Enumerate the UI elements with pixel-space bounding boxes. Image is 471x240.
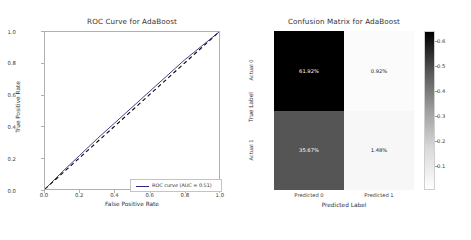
cm-cell-value-1-0: 35.67% — [299, 147, 319, 153]
cm-col-label-predicted-0: Predicted 0 — [274, 192, 344, 198]
cm-cell-value-0-0: 61.92% — [299, 68, 319, 74]
roc-plot-area — [44, 31, 220, 190]
cm-row-actual-1: 35.67% 1.48% — [274, 111, 414, 191]
roc-ytick-0.0: 0.0 — [0, 188, 16, 194]
cm-x-axis-label: Predicted Label — [274, 202, 414, 208]
roc-xtick-0.6: 0.6 — [135, 192, 165, 198]
confusion-matrix-panel: Confusion Matrix for AdaBoost True Label… — [240, 0, 471, 240]
legend-label-roc-curve: ROC curve (AUC = 0.51) — [152, 182, 212, 188]
chance-diagonal-line — [45, 32, 219, 189]
colorbar-tick-0.6: 0.6 — [437, 38, 445, 44]
roc-xtick-0.2: 0.2 — [64, 192, 94, 198]
roc-ytick-0.8: 0.8 — [0, 60, 16, 66]
roc-ytick-1.0: 1.0 — [0, 29, 16, 35]
confusion-matrix-title: Confusion Matrix for AdaBoost — [274, 17, 414, 26]
cm-heatmap-grid: 61.92% 0.92% 35.67% 1.48% — [274, 31, 414, 190]
roc-ytick-0.4: 0.4 — [0, 124, 16, 130]
figure-canvas: ROC Curve for AdaBoost True Positive Rat… — [0, 0, 471, 240]
cm-row-label-actual-0: Actual 0 — [248, 50, 254, 90]
cm-cell-0-1: 0.92% — [344, 31, 414, 111]
colorbar — [424, 31, 435, 190]
colorbar-tick-0.2: 0.2 — [437, 138, 445, 144]
cm-cell-1-1: 1.48% — [344, 111, 414, 191]
roc-x-axis-label: False Positive Rate — [44, 201, 220, 207]
roc-xtick-0.0: 0.0 — [29, 192, 59, 198]
roc-y-axis-label: True Positive Rate — [15, 67, 21, 147]
roc-xtick-1.0: 1.0 — [205, 192, 235, 198]
colorbar-tick-0.3: 0.3 — [437, 113, 445, 119]
colorbar-tick-0.5: 0.5 — [437, 63, 445, 69]
legend-line-swatch — [136, 186, 149, 187]
roc-ytick-0.2: 0.2 — [0, 156, 16, 162]
roc-title: ROC Curve for AdaBoost — [44, 17, 220, 26]
roc-ytick-0.6: 0.6 — [0, 92, 16, 98]
cm-col-label-predicted-1: Predicted 1 — [344, 192, 414, 198]
cm-row-actual-0: 61.92% 0.92% — [274, 31, 414, 111]
roc-xtick-0.4: 0.4 — [99, 192, 129, 198]
cm-cell-value-1-1: 1.48% — [371, 147, 387, 153]
roc-legend[interactable]: ROC curve (AUC = 0.51) — [130, 179, 222, 192]
cm-cell-0-0: 61.92% — [274, 31, 344, 111]
roc-curve-svg — [45, 32, 219, 189]
cm-cell-1-0: 35.67% — [274, 111, 344, 191]
roc-panel: ROC Curve for AdaBoost True Positive Rat… — [0, 0, 240, 240]
colorbar-tick-0.4: 0.4 — [437, 88, 445, 94]
cm-row-label-actual-1: Actual 1 — [248, 130, 254, 170]
roc-xtick-0.8: 0.8 — [170, 192, 200, 198]
cm-cell-value-0-1: 0.92% — [371, 68, 387, 74]
colorbar-tick-0.1: 0.1 — [437, 163, 445, 169]
